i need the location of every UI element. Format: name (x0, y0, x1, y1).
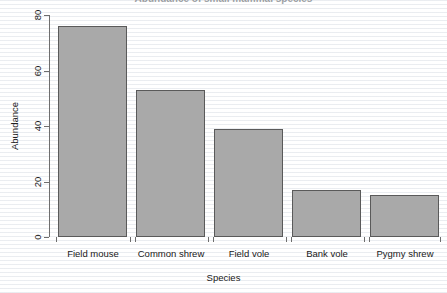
x-axis-tick (286, 237, 287, 242)
y-axis-title-label: Abundance (9, 102, 20, 150)
y-axis-tick (44, 15, 49, 16)
chart-title-clipped: Abundance of small mammal species (0, 0, 447, 6)
bar-chart-figure: Abundance of small mammal species 0 20 4… (0, 0, 447, 293)
bar-pygmy-shrew (370, 195, 439, 237)
x-axis-label-pygmy-shrew: Pygmy shrew (376, 248, 433, 259)
x-axis-tick (213, 237, 214, 242)
x-axis-tick (135, 237, 136, 242)
y-tick-label: 20 (32, 176, 43, 187)
plot-area (49, 15, 440, 237)
x-axis-tick (208, 237, 209, 242)
x-axis-label-common-shrew: Common shrew (138, 248, 205, 259)
bar-bank-vole (292, 190, 361, 237)
x-axis-tick (130, 237, 131, 242)
x-axis-tick (369, 237, 370, 242)
x-axis-label-field-vole: Field vole (229, 248, 270, 259)
x-axis-tick (291, 237, 292, 242)
y-tick-label: 40 (32, 121, 43, 132)
x-axis-tick (364, 237, 365, 242)
y-axis-tick (44, 71, 49, 72)
y-axis-tick (44, 182, 49, 183)
y-tick-label: 80 (32, 10, 43, 21)
x-axis-title: Species (0, 272, 447, 283)
x-axis-label-bank-vole: Bank vole (306, 248, 348, 259)
x-axis-tick-group (0, 237, 447, 243)
x-axis-tick (56, 237, 57, 242)
y-axis-line (49, 15, 50, 237)
bar-field-mouse (58, 26, 127, 237)
bar-field-vole (214, 129, 283, 237)
x-axis-tick (440, 237, 441, 242)
x-axis-label-field-mouse: Field mouse (67, 248, 119, 259)
y-axis-tick (44, 126, 49, 127)
x-axis-title-label: Species (207, 272, 241, 283)
bar-common-shrew (136, 90, 205, 237)
x-axis-label-group: Field mouse Common shrew Field vole Bank… (0, 248, 447, 264)
y-tick-label: 60 (32, 65, 43, 76)
chart-title: Abundance of small mammal species (0, 0, 447, 4)
